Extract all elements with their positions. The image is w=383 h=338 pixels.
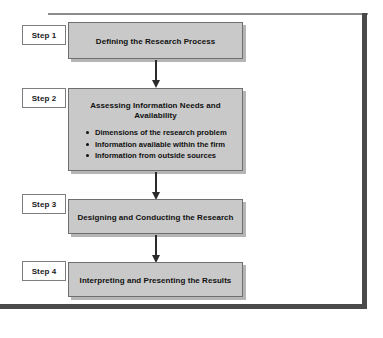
list-item: Information available within the firm (95, 139, 242, 151)
process-box-1-title: Defining the Research Process (69, 23, 242, 47)
process-box-4: Interpreting and Presenting the Results (68, 262, 243, 297)
figure-right-rule (362, 13, 367, 309)
step-tag-2: Step 2 (22, 88, 66, 108)
step-tag-4: Step 4 (22, 261, 66, 281)
figure-bottom-rule (0, 304, 367, 309)
process-box-2-bullet-list: Dimensions of the research problem Infor… (69, 127, 242, 162)
connector-arrow-1-to-2 (155, 60, 157, 81)
list-item-label: Information from outside sources (95, 151, 216, 160)
process-box-4-title: Interpreting and Presenting the Results (69, 263, 242, 286)
step-tag-1-label: Step 1 (32, 31, 57, 40)
list-item: Information from outside sources (95, 150, 242, 162)
bullet-dot-icon (86, 143, 89, 146)
step-tag-2-label: Step 2 (32, 94, 57, 103)
connector-arrow-2-to-3 (155, 172, 157, 193)
process-box-3: Designing and Conducting the Research (68, 199, 243, 234)
step-tag-3: Step 3 (22, 194, 66, 214)
arrowhead-down-icon (152, 80, 160, 88)
connector-arrow-3-to-4 (155, 235, 157, 256)
process-box-3-title: Designing and Conducting the Research (69, 200, 242, 223)
step-tag-4-label: Step 4 (32, 267, 57, 276)
figure-top-rule (48, 13, 368, 15)
process-box-2-title: Assessing Information Needs and Availabi… (69, 89, 242, 120)
bullet-dot-icon (86, 131, 89, 134)
step-tag-1: Step 1 (22, 25, 66, 45)
step-tag-3-label: Step 3 (32, 200, 57, 209)
flowchart-figure: Step 1 Defining the Research Process Ste… (0, 0, 383, 338)
bullet-dot-icon (86, 154, 89, 157)
list-item: Dimensions of the research problem (95, 127, 242, 139)
list-item-label: Information available within the firm (95, 140, 225, 149)
list-item-label: Dimensions of the research problem (95, 128, 227, 137)
process-box-1: Defining the Research Process (68, 22, 243, 59)
process-box-2: Assessing Information Needs and Availabi… (68, 88, 243, 171)
